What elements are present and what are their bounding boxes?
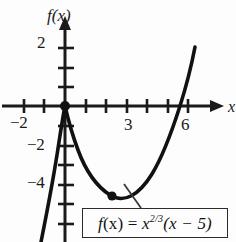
equation-base: x: [142, 213, 150, 232]
origin-point: [60, 101, 70, 111]
equation-factor: (x − 5): [163, 213, 212, 232]
y-axis-label: f(x): [47, 6, 71, 26]
plot-area: [0, 0, 236, 242]
equation-text: f(x) = x2/3(x − 5): [98, 213, 212, 234]
minimum-point: [107, 191, 116, 200]
graph-figure: f(x) x −2 3 6 2 −2 −4 f(x) = x2/3(x − 5): [0, 0, 236, 242]
y-tick-label-neg4: −4: [27, 173, 45, 193]
x-tick-label-6: 6: [181, 115, 189, 135]
equation-callout-box: f(x) = x2/3(x − 5): [82, 208, 228, 238]
equation-exponent: 2/3: [150, 213, 163, 224]
x-axis: [2, 100, 224, 112]
x-tick-label-neg2: −2: [10, 113, 28, 133]
y-tick-label-neg2: −2: [27, 135, 45, 155]
x-tick-label-3: 3: [124, 115, 132, 135]
y-tick-label-2: 2: [37, 33, 45, 53]
equation-lhs-arg: (x) =: [103, 213, 142, 232]
x-axis-label: x: [228, 98, 235, 116]
